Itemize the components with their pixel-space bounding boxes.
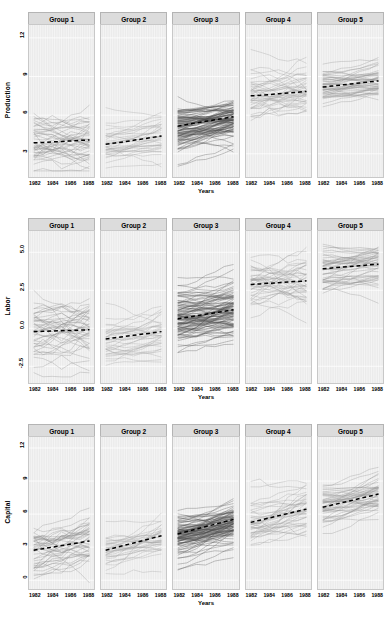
- chart-panel: Group 11982198419861988: [28, 0, 95, 206]
- x-tick-label: 1984: [191, 592, 203, 598]
- x-tick-label: 1988: [227, 592, 239, 598]
- chart-panel: Group 41982198419861988: [245, 412, 312, 622]
- x-tick-label: 1988: [299, 180, 311, 186]
- chart-row-capital: Capital036912Group 11982198419861988Grou…: [0, 412, 386, 622]
- chart-panel: Group 41982198419861988: [245, 206, 312, 412]
- y-tick-text: 9: [21, 72, 27, 75]
- y-tick-label: 6: [23, 109, 26, 115]
- x-tick-label: 1986: [281, 386, 293, 392]
- y-tick-text: 3: [21, 542, 27, 545]
- x-tick-label: 1986: [137, 180, 149, 186]
- panel-svg: [318, 231, 383, 383]
- panel-svg: [29, 25, 94, 177]
- x-tick-label: 1986: [209, 180, 221, 186]
- chart-panel: Group 51982198419861988: [317, 412, 384, 622]
- y-axis-title: Capital: [0, 436, 14, 588]
- x-tick-label: 1982: [318, 592, 330, 598]
- x-tick-label: 1986: [281, 592, 293, 598]
- y-axis-title-text: Capital: [4, 500, 11, 523]
- x-tick-label: 1986: [137, 386, 149, 392]
- x-tick-label: 1984: [263, 180, 275, 186]
- panel-svg: [173, 231, 238, 383]
- x-axis-ticks: 1982198419861988: [100, 592, 167, 598]
- panel-svg: [101, 437, 166, 589]
- x-axis-ticks: 1982198419861988: [100, 386, 167, 392]
- chart-row-production: Production36912Group 11982198419861988Gr…: [0, 0, 386, 206]
- y-tick-label: 12: [19, 32, 26, 38]
- x-tick-label: 1988: [83, 592, 95, 598]
- x-tick-label: 1984: [47, 592, 59, 598]
- y-axis-ticks: 036912: [13, 436, 28, 588]
- panel-strip-text: Group 4: [266, 16, 291, 23]
- y-tick-text: 6: [21, 509, 27, 512]
- x-tick-label: 1988: [83, 386, 95, 392]
- x-tick-label: 1984: [336, 386, 348, 392]
- panel-svg: [246, 231, 311, 383]
- y-tick-label: 2.5: [18, 284, 26, 290]
- x-axis-ticks: 1982198419861988: [245, 592, 312, 598]
- panel-svg: [29, 437, 94, 589]
- panel-plot-area: [245, 436, 312, 590]
- y-tick-text: 12: [20, 442, 26, 449]
- x-axis-ticks: 1982198419861988: [317, 592, 384, 598]
- panel-strip-text: Group 4: [266, 222, 291, 229]
- x-tick-label: 1982: [101, 386, 113, 392]
- x-tick-label: 1988: [83, 180, 95, 186]
- x-axis-title: Years: [172, 188, 239, 194]
- panel-strip-text: Group 2: [121, 428, 146, 435]
- chart-panel: Group 31982198419861988Years: [172, 206, 239, 412]
- x-tick-label: 1984: [263, 592, 275, 598]
- y-tick-text: 0: [21, 576, 27, 579]
- panel-plot-area: [172, 24, 239, 178]
- x-tick-label: 1986: [65, 592, 77, 598]
- x-tick-label: 1986: [354, 592, 366, 598]
- y-tick-label: 3: [23, 148, 26, 154]
- x-axis-title: Years: [172, 394, 239, 400]
- x-tick-label: 1982: [173, 180, 185, 186]
- chart-panel: Group 11982198419861988: [28, 206, 95, 412]
- x-tick-label: 1988: [155, 592, 167, 598]
- x-axis-ticks: 1982198419861988: [100, 180, 167, 186]
- x-axis-ticks: 1982198419861988: [245, 180, 312, 186]
- x-tick-label: 1988: [371, 180, 383, 186]
- chart-panel: Group 21982198419861988: [100, 206, 167, 412]
- panel-strip: Group 11982198419861988Group 21982198419…: [28, 0, 384, 206]
- panel-strip-text: Group 4: [266, 428, 291, 435]
- x-tick-label: 1988: [227, 386, 239, 392]
- y-tick-text: 9: [21, 476, 27, 479]
- panel-svg: [318, 437, 383, 589]
- vertical-gridlines: [246, 231, 311, 383]
- chart-panel: Group 11982198419861988: [28, 412, 95, 622]
- y-tick-label: 0: [23, 574, 26, 580]
- x-tick-label: 1986: [354, 180, 366, 186]
- x-axis-ticks: 1982198419861988: [172, 180, 239, 186]
- panel-strip: Group 11982198419861988Group 21982198419…: [28, 206, 384, 412]
- x-tick-label: 1982: [173, 592, 185, 598]
- vertical-gridlines: [29, 231, 94, 383]
- panel-plot-area: [317, 436, 384, 590]
- panel-plot-area: [245, 230, 312, 384]
- panel-strip-text: Group 1: [49, 16, 74, 23]
- y-axis-title: Labor: [0, 230, 14, 382]
- x-tick-label: 1982: [246, 386, 258, 392]
- x-tick-label: 1988: [371, 386, 383, 392]
- panel-strip-text: Group 2: [121, 222, 146, 229]
- x-tick-label: 1982: [29, 180, 41, 186]
- x-tick-label: 1984: [191, 180, 203, 186]
- y-tick-label: 3: [23, 541, 26, 547]
- panel-svg: [246, 437, 311, 589]
- x-axis-ticks: 1982198419861988: [245, 386, 312, 392]
- trellis-chart-figure: Production36912Group 11982198419861988Gr…: [0, 0, 386, 622]
- x-tick-label: 1986: [137, 592, 149, 598]
- panel-plot-area: [28, 230, 95, 384]
- x-tick-label: 1982: [318, 386, 330, 392]
- y-tick-label: 12: [19, 442, 26, 448]
- panel-strip-text: Group 1: [49, 428, 74, 435]
- x-axis-ticks: 1982198419861988: [28, 592, 95, 598]
- y-tick-text: -2.5: [18, 358, 24, 368]
- x-tick-label: 1982: [29, 592, 41, 598]
- x-tick-label: 1982: [173, 386, 185, 392]
- panel-strip-text: Group 3: [194, 16, 219, 23]
- panel-plot-area: [100, 436, 167, 590]
- y-tick-text: 5.0: [19, 245, 25, 253]
